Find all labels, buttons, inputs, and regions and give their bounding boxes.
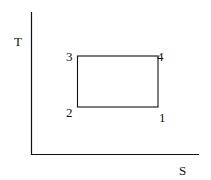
point-label-2: 2 [66, 105, 73, 120]
x-axis-label: S [179, 163, 186, 178]
point-label-3: 3 [66, 49, 73, 64]
cycle-rectangle [78, 56, 159, 107]
y-axis-label: T [14, 34, 22, 49]
point-label-1: 1 [159, 110, 166, 125]
ts-diagram: T S 3 4 2 1 [0, 0, 211, 180]
point-label-4: 4 [157, 49, 164, 64]
